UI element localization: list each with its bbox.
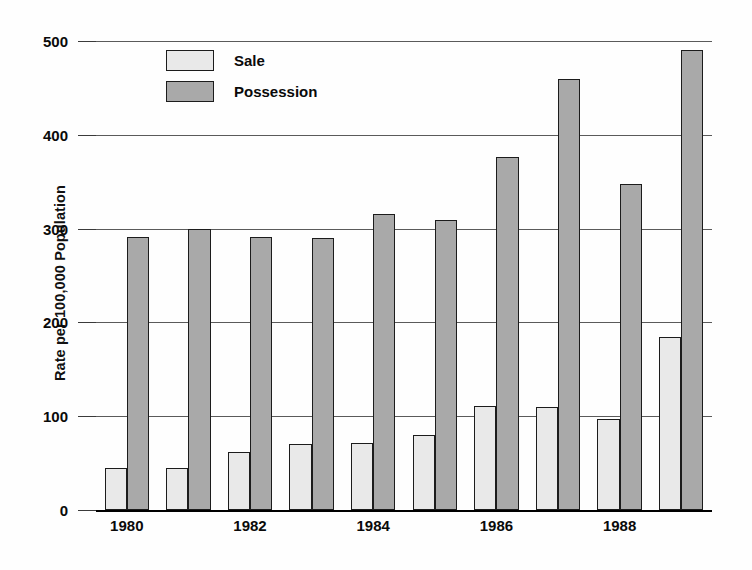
bar-sale-1987 (536, 407, 558, 510)
bar-group-1988 (589, 41, 651, 510)
bar-group-1983 (281, 41, 343, 510)
bar-group-1981 (158, 41, 220, 510)
bar-possession-1988 (620, 184, 642, 510)
bar-possession-1984 (373, 214, 395, 510)
y-tick-label-300: 300 (0, 220, 68, 237)
bar-group-container (96, 41, 712, 510)
bar-group-1980 (96, 41, 158, 510)
bar-possession-1981 (188, 229, 210, 510)
x-tick-label-1980: 1980 (110, 517, 143, 534)
y-tick-label-0: 0 (0, 502, 68, 519)
gridline-0 (96, 510, 712, 512)
legend-item-possession: Possession (166, 80, 317, 102)
bar-group-1985 (404, 41, 466, 510)
bar-sale-1983 (289, 444, 311, 510)
bar-group-1984 (342, 41, 404, 510)
bar-possession-1985 (435, 220, 457, 510)
x-tick-label-1986: 1986 (480, 517, 513, 534)
y-tick-mark-0 (78, 510, 96, 511)
x-tick-label-1988: 1988 (603, 517, 636, 534)
chart-legend: SalePossession (166, 49, 317, 111)
bar-sale-1985 (413, 435, 435, 510)
bar-group-1987 (527, 41, 589, 510)
y-tick-label-500: 500 (0, 33, 68, 50)
bar-possession-1982 (250, 237, 272, 510)
bar-sale-1980 (105, 468, 127, 510)
plot-area (96, 41, 712, 510)
bar-sale-1989 (659, 337, 681, 510)
bar-sale-1988 (597, 419, 619, 510)
bar-group-1982 (219, 41, 281, 510)
bar-possession-1980 (127, 237, 149, 510)
x-tick-label-1984: 1984 (357, 517, 390, 534)
bar-group-1989 (650, 41, 712, 510)
legend-label-sale: Sale (234, 52, 265, 69)
legend-item-sale: Sale (166, 49, 317, 71)
bar-sale-1981 (166, 468, 188, 510)
y-tick-label-400: 400 (0, 126, 68, 143)
bar-possession-1987 (558, 79, 580, 510)
bar-sale-1982 (228, 452, 250, 510)
x-tick-label-1982: 1982 (233, 517, 266, 534)
legend-swatch-sale (166, 50, 214, 71)
y-tick-mark-400 (78, 135, 96, 136)
bar-group-1986 (466, 41, 528, 510)
bar-possession-1986 (496, 157, 518, 510)
bar-possession-1989 (681, 50, 703, 510)
bar-chart-figure: Rate per 100,000 Population 010020030040… (0, 0, 752, 570)
y-tick-label-100: 100 (0, 408, 68, 425)
legend-label-possession: Possession (234, 83, 317, 100)
y-tick-mark-500 (78, 41, 96, 42)
bar-sale-1984 (351, 443, 373, 510)
legend-swatch-possession (166, 81, 214, 102)
y-tick-label-200: 200 (0, 314, 68, 331)
bar-sale-1986 (474, 406, 496, 510)
bar-possession-1983 (312, 238, 334, 510)
y-tick-mark-200 (78, 322, 96, 323)
y-tick-mark-100 (78, 416, 96, 417)
y-tick-mark-300 (78, 229, 96, 230)
